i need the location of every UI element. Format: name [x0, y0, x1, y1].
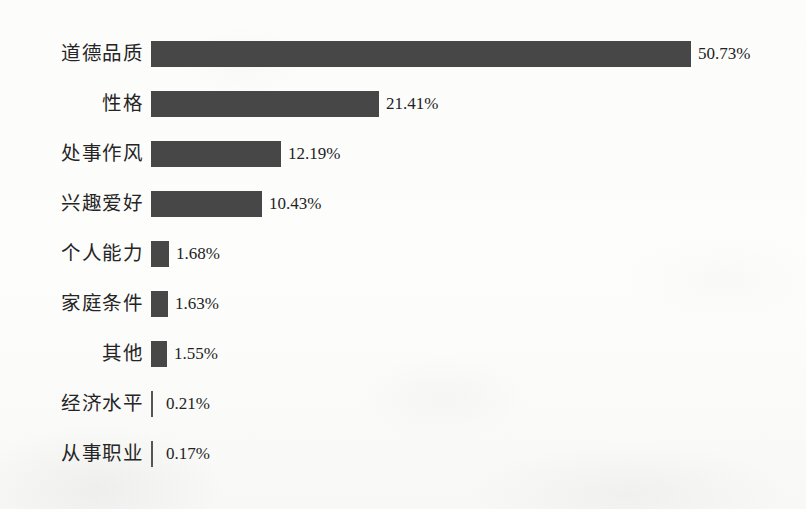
value-label: 12.19% — [288, 141, 340, 167]
bar — [151, 241, 169, 267]
horizontal-bar-chart: 道德品质50.73%性格21.41%处事作风12.19%兴趣爱好10.43%个人… — [0, 0, 806, 509]
category-label: 其他 — [0, 341, 143, 367]
bar-row: 性格21.41% — [0, 79, 806, 129]
category-label: 处事作风 — [0, 141, 143, 167]
value-label: 1.68% — [176, 241, 220, 267]
value-label: 0.21% — [166, 391, 210, 417]
value-label: 0.17% — [166, 441, 210, 467]
bar-row: 处事作风12.19% — [0, 129, 806, 179]
bar — [151, 91, 379, 117]
bar — [151, 441, 153, 467]
bar-row: 兴趣爱好10.43% — [0, 179, 806, 229]
bar — [151, 141, 281, 167]
value-label: 50.73% — [698, 41, 750, 67]
category-label: 经济水平 — [0, 391, 143, 417]
category-label: 个人能力 — [0, 241, 143, 267]
bar — [151, 191, 262, 217]
bar — [151, 341, 167, 367]
bar-row: 其他1.55% — [0, 329, 806, 379]
bar-row: 经济水平0.21% — [0, 379, 806, 429]
value-label: 21.41% — [386, 91, 438, 117]
bar-row: 从事职业0.17% — [0, 429, 806, 479]
category-label: 家庭条件 — [0, 291, 143, 317]
value-label: 1.55% — [174, 341, 218, 367]
category-label: 兴趣爱好 — [0, 191, 143, 217]
category-label: 道德品质 — [0, 41, 143, 67]
bar-row: 个人能力1.68% — [0, 229, 806, 279]
value-label: 10.43% — [269, 191, 321, 217]
category-label: 性格 — [0, 91, 143, 117]
bar-row: 道德品质50.73% — [0, 29, 806, 79]
bar — [151, 41, 691, 67]
bar — [151, 291, 168, 317]
bar-row: 家庭条件1.63% — [0, 279, 806, 329]
category-label: 从事职业 — [0, 441, 143, 467]
value-label: 1.63% — [175, 291, 219, 317]
bar — [151, 391, 153, 417]
